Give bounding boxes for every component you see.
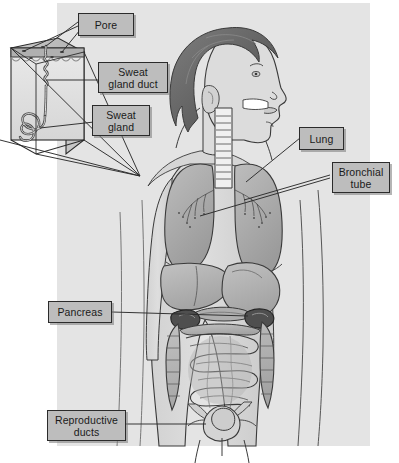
left-lung (235, 164, 283, 277)
trachea (215, 108, 232, 188)
label-lung-text: Lung (310, 133, 334, 145)
label-pore-text: Pore (95, 19, 118, 31)
bladder (212, 408, 235, 430)
label-sweat-gland-duct-line2: gland duct (108, 78, 157, 90)
label-pancreas[interactable]: Pancreas (48, 301, 112, 323)
skin-cross-section-inset (11, 38, 84, 154)
right-kidney (245, 309, 274, 328)
magnification-line-bottom (36, 154, 140, 176)
epidermis-layer (11, 48, 84, 57)
label-bronchial-tube[interactable]: Bronchial tube (332, 162, 390, 193)
label-sweat-gland[interactable]: Sweat gland (92, 105, 150, 136)
figure-canvas: Pore Sweat gland duct Sweat gland Lung B… (0, 0, 399, 463)
label-pore[interactable]: Pore (78, 13, 134, 36)
right-arm-inner-line (298, 200, 303, 446)
left-vas-deferens (188, 420, 204, 426)
label-reproductive-ducts[interactable]: Reproductive ducts (47, 410, 126, 441)
label-lung[interactable]: Lung (299, 127, 344, 150)
label-pancreas-text: Pancreas (57, 306, 102, 318)
left-arm-contour (140, 200, 144, 446)
pupil (255, 73, 258, 76)
oral-cavity (243, 99, 268, 110)
lung-leader (246, 138, 300, 182)
label-sweat-gland-line1: Sweat (106, 109, 136, 121)
label-sweat-gland-duct-line1: Sweat (118, 66, 148, 78)
anatomy-illustration (0, 0, 399, 463)
label-reproductive-ducts-line1: Reproductive (55, 414, 118, 426)
label-bronchial-tube-line1: Bronchial (339, 166, 384, 178)
label-bronchial-tube-line2: tube (351, 178, 372, 190)
left-leg-line (195, 440, 200, 463)
label-sweat-gland-line2: gland (108, 121, 134, 133)
label-reproductive-ducts-line2: ducts (74, 426, 100, 438)
label-sweat-gland-duct[interactable]: Sweat gland duct (98, 62, 168, 93)
right-body-contour (318, 190, 323, 446)
